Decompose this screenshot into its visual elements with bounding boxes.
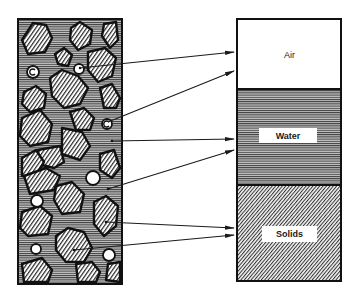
water-label: Water <box>259 128 317 143</box>
air-label: Air <box>238 22 341 88</box>
arrow-water-2 <box>108 150 234 189</box>
arrow-solids-1 <box>106 222 234 228</box>
soil-cross-section <box>18 19 122 284</box>
solids-label: Solids <box>262 226 317 242</box>
arrow-air-2 <box>108 71 234 122</box>
arrow-water-1 <box>112 139 234 141</box>
